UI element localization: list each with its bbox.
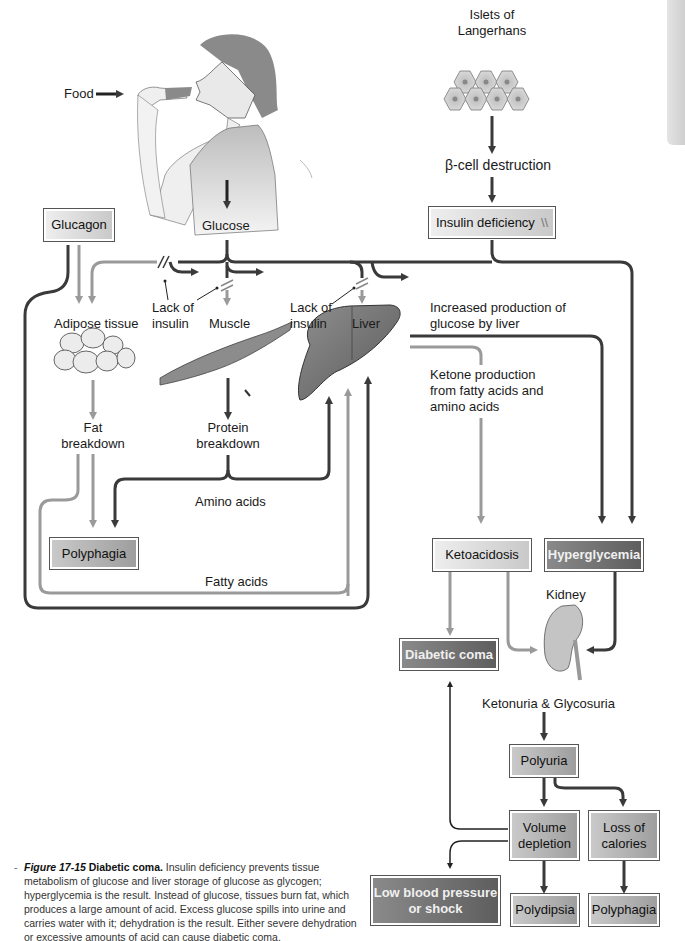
liver-label: Liver [352,316,380,332]
fat-breakdown-label: Fat breakdown [53,420,133,452]
muscle-label: Muscle [209,316,250,332]
insulin-deficiency-content: Insulin deficiency \\ [431,209,553,236]
low-bp-line1: Low blood pressure [374,885,498,901]
glucose-bus-left [178,254,227,262]
volume-depletion-box: Volume depletion [509,810,580,861]
insulin-deficiency-text: Insulin deficiency [436,215,535,231]
break-mark-icon: \\ [541,215,548,231]
muscle-illustration [160,322,292,396]
hyperglycemia-to-kidney-arrow [590,572,615,650]
lack-insulin-1-line2: insulin [152,316,194,332]
food-label: Food [64,86,94,102]
bypass-arrow-3 [372,262,405,277]
protein-breakdown-line1: Protein [188,420,268,436]
polyphagia-right-box: Polyphagia [588,893,660,927]
diabetic-coma-box: Diabetic coma [399,638,499,671]
glucagon-box: Glucagon [43,208,115,242]
polydipsia-text: Polydipsia [513,896,577,924]
ketoacidosis-box: Ketoacidosis [432,538,532,572]
lack-insulin-label-2: Lack of insulin [290,300,332,332]
ketone-line2: from fatty acids and [430,383,543,399]
caption-dash-marker: - [14,860,18,874]
kidney-illustration [544,605,582,680]
low-blood-pressure-box: Low blood pressure or shock [370,875,501,926]
adipose-cells-illustration [54,328,135,373]
islets-label: Islets of Langerhans [452,7,532,39]
loss-calories-line2: calories [602,836,647,852]
loss-of-calories-text: Loss of calories [591,813,657,858]
adipose-label: Adipose tissue [54,316,139,332]
polydipsia-box: Polydipsia [510,893,580,927]
islets-label-line2: Langerhans [452,23,532,39]
volume-to-lowbp-arrow [450,841,508,866]
insulin-block-mark-1 [158,256,169,268]
ketone-line1: Ketone production [430,367,543,383]
ketoacidosis-to-kidney-arrow [508,572,534,650]
polyphagia-left-box: Polyphagia [49,537,139,570]
liver-to-ketone-line [410,347,481,365]
polyphagia-left-text: Polyphagia [52,540,136,567]
figure-title: Diabetic coma. [89,861,163,873]
amino-to-polyphagia-arrow [115,455,228,524]
ketone-line3: amino acids [430,399,543,415]
fat-breakdown-line1: Fat [53,420,133,436]
volume-depletion-line2: depletion [518,836,571,852]
kidney-label: Kidney [546,587,586,603]
figure-number: Figure 17-15 [24,861,86,873]
insulin-block-mark-3 [356,278,368,289]
diagram-canvas [0,0,685,941]
increased-glucose-line2: glucose by liver [430,316,566,332]
glucagon-text: Glucagon [46,211,112,239]
ketoacidosis-text: Ketoacidosis [435,541,529,569]
hyperglycemia-box: Hyperglycemia [544,538,644,572]
hyperglycemia-text: Hyperglycemia [547,541,641,569]
increased-glucose-label: Increased production of glucose by liver [430,300,566,332]
fat-breakdown-line2: breakdown [53,436,133,452]
glucose-to-adipose-arrow [92,262,157,300]
bypass-arrow-2 [227,266,260,272]
polyuria-to-calories-arrow [555,777,623,803]
amino-acids-label: Amino acids [195,494,266,510]
ketonuria-label: Ketonuria & Glycosuria [482,696,615,712]
fatty-acids-line [40,454,348,593]
protein-breakdown-line2: breakdown [188,436,268,452]
polyphagia-right-text: Polyphagia [591,896,657,924]
amino-split-line [228,470,329,479]
glucose-bus-right [227,240,492,262]
ketone-production-label: Ketone production from fatty acids and a… [430,367,543,415]
figure-caption: - Figure 17-15 Diabetic coma. Insulin de… [24,860,364,941]
protein-breakdown-label: Protein breakdown [188,420,268,452]
polyuria-text: Polyuria [512,747,576,775]
loss-of-calories-box: Loss of calories [588,810,660,861]
polyuria-box: Polyuria [509,744,579,778]
insulin-deficiency-box: Insulin deficiency \\ [428,206,556,239]
beta-cell-label: β-cell destruction [445,157,551,173]
diabetic-coma-text: Diabetic coma [402,641,496,668]
volume-depletion-text: Volume depletion [512,813,577,858]
lack-insulin-1-line1: Lack of [152,300,194,316]
lack-insulin-2-line2: insulin [290,316,332,332]
figure-caption-text: Insulin deficiency prevents tissue metab… [24,861,357,941]
fatty-acids-label: Fatty acids [205,574,268,590]
low-bp-text: Low blood pressure or shock [373,878,498,923]
insulin-block-mark-2 [221,280,233,291]
low-bp-line2: or shock [374,901,498,917]
lack-insulin-2-line1: Lack of [290,300,332,316]
loss-calories-line1: Loss of [602,820,647,836]
islet-cells-illustration [444,71,529,110]
glucose-label: Glucose [202,218,250,234]
woman-eating-illustration [138,34,313,235]
islets-label-line1: Islets of [452,7,532,23]
lack-insulin-label-1: Lack of insulin [152,300,194,332]
increased-glucose-line1: Increased production of [430,300,566,316]
liver-to-hyperglycemia-arrow [410,336,602,520]
volume-depletion-line1: Volume [518,820,571,836]
